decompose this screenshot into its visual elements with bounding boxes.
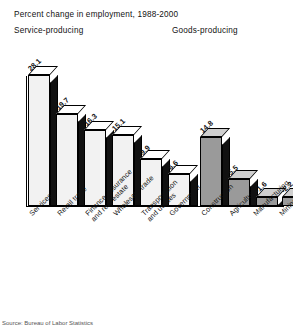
bar-services: 28.1 [28, 75, 50, 206]
group-label-service-producing: Service-producing [14, 26, 83, 35]
chart-title: Percent change in employment, 1988-2000 [14, 10, 178, 19]
bar-front-face [28, 75, 50, 206]
group-label-goods-producing: Goods-producing [172, 26, 238, 35]
employment-change-bar-chart: Percent change in employment, 1988-2000 … [0, 0, 293, 331]
source-note: Source: Bureau of Labor Statistics [2, 320, 93, 326]
